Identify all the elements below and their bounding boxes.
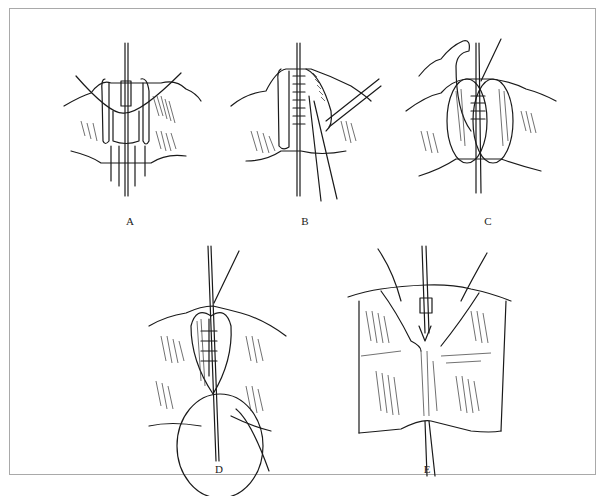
panel-label-c: C xyxy=(478,215,498,227)
panel-label-d: D xyxy=(209,463,229,475)
panel-e-illustration xyxy=(10,9,607,496)
panel-label-e: E xyxy=(417,463,437,475)
panel-label-a: A xyxy=(120,215,140,227)
panel-label-b: B xyxy=(295,215,315,227)
figure-frame: A B C D E xyxy=(9,8,596,475)
